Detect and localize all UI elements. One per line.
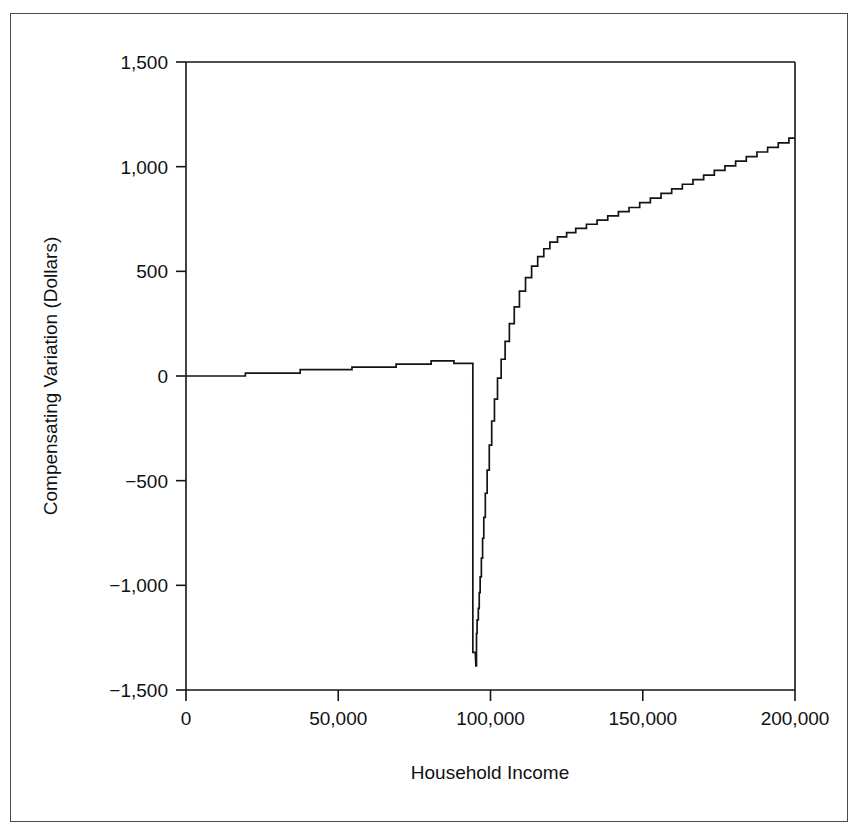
figure-container: −1,500−1,000−50005001,0001,500 050,00010…	[0, 0, 866, 840]
data-line-series	[186, 138, 795, 666]
x-axis-tick-labels: 050,000100,000150,000200,000	[181, 708, 830, 729]
y-tick-label: 500	[136, 261, 168, 282]
y-tick-label: −1,500	[109, 680, 168, 701]
y-tick-label: −500	[125, 471, 168, 492]
x-axis-ticks	[186, 690, 795, 701]
x-tick-label: 50,000	[309, 708, 367, 729]
x-tick-label: 100,000	[456, 708, 525, 729]
compensating-variation-line-chart: −1,500−1,000−50005001,0001,500 050,00010…	[0, 0, 866, 840]
data-series-group	[186, 138, 795, 666]
x-axis-title: Household Income	[411, 762, 569, 783]
y-axis-title: Compensating Variation (Dollars)	[40, 237, 61, 515]
y-axis-ticks	[176, 62, 186, 690]
x-tick-label: 200,000	[761, 708, 830, 729]
axes-frame	[186, 62, 795, 690]
y-tick-label: 1,500	[120, 52, 168, 73]
y-tick-label: −1,000	[109, 575, 168, 596]
x-tick-label: 0	[181, 708, 192, 729]
plot-wrapper: −1,500−1,000−50005001,0001,500 050,00010…	[0, 0, 866, 840]
y-axis-tick-labels: −1,500−1,000−50005001,0001,500	[109, 52, 168, 701]
x-tick-label: 150,000	[608, 708, 677, 729]
y-tick-label: 1,000	[120, 157, 168, 178]
y-tick-label: 0	[157, 366, 168, 387]
